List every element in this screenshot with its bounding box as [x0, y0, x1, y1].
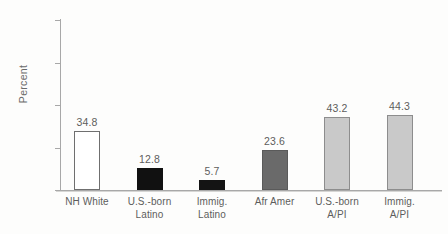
bar-value-label: 43.2	[306, 102, 368, 114]
bar-group[interactable]: 34.8	[74, 131, 100, 190]
bar-group[interactable]: 44.3	[387, 115, 413, 190]
y-axis-tick-mark	[55, 190, 60, 191]
bar[interactable]	[262, 150, 288, 190]
bar[interactable]	[199, 180, 225, 190]
bar-value-label: 34.8	[56, 116, 118, 128]
bar[interactable]	[137, 168, 163, 190]
bar-group[interactable]: 43.2	[324, 117, 350, 190]
bar-group[interactable]: 12.8	[137, 168, 163, 190]
bar-group[interactable]: 5.7	[199, 180, 225, 190]
bar[interactable]	[324, 117, 350, 190]
bar-value-label: 23.6	[244, 135, 306, 147]
plot-area: 34.812.85.723.643.244.3	[60, 20, 440, 190]
bar[interactable]	[387, 115, 413, 190]
y-axis-title: Percent	[17, 54, 29, 114]
bar[interactable]	[74, 131, 100, 190]
bar-group[interactable]: 23.6	[262, 150, 288, 190]
bar-value-label: 44.3	[369, 100, 431, 112]
bar-chart-figure: Percent 0255075100 34.812.85.723.643.244…	[0, 0, 448, 234]
bar-value-label: 5.7	[181, 165, 243, 177]
bar-value-label: 12.8	[119, 153, 181, 165]
x-axis-line	[56, 190, 442, 191]
x-axis-category-label: Immig.A/PI	[360, 196, 440, 221]
